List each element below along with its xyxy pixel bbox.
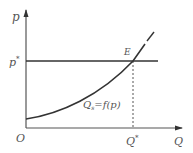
origin-label: O [16,132,25,145]
quantity-level-letter: Q [126,135,135,148]
y-axis-label: p [12,10,20,24]
curve-label-rest: =f(p) [94,99,120,110]
equilibrium-label: E [123,47,131,57]
x-axis-label: Q [174,135,183,148]
curve-label: Qs=f(p) [83,99,121,111]
price-level-label: p* [9,55,20,69]
curve-label-q: Q [83,99,91,110]
quantity-level-label: Q* [126,134,139,148]
supply-curve-extension [147,32,154,41]
quantity-level-star: * [135,134,139,142]
price-level-star: * [16,55,20,63]
supply-diagram: p p* O Q* Q E Qs=f(p) [0,0,193,153]
price-level-letter: p [9,56,16,69]
